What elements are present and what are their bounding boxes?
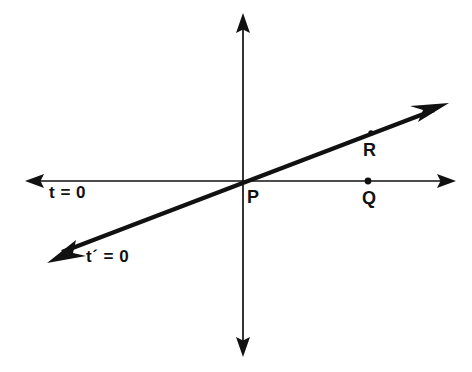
spacetime-diagram-figure: t = 0 t´ = 0 P Q R — [0, 0, 472, 372]
point-label-q: Q — [362, 189, 377, 207]
point-r-dot — [368, 130, 373, 135]
label-t-equals-zero: t = 0 — [49, 184, 86, 201]
slanted-axis-group — [47, 103, 449, 263]
point-label-r: R — [363, 141, 377, 159]
label-t-prime-equals-zero: t´ = 0 — [86, 248, 129, 265]
point-q-dot — [365, 178, 372, 185]
point-label-p: P — [247, 188, 260, 206]
